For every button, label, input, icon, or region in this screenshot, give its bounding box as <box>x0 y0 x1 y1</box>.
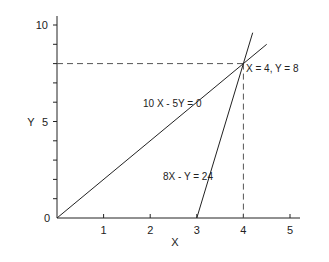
intersection-label: X = 4, Y = 8 <box>246 63 299 74</box>
y-ticks <box>53 25 57 199</box>
x-tick-label-5: 5 <box>287 224 293 236</box>
origin-label: 0 <box>44 212 50 224</box>
y-tick-label-10: 10 <box>36 19 48 31</box>
line-label-8x-y-24: 8X - Y = 24 <box>163 171 213 182</box>
x-tick-label-4: 4 <box>240 224 246 236</box>
line-8x-y-24 <box>197 33 253 218</box>
x-tick-label-2: 2 <box>147 224 153 236</box>
x-tick-label-1: 1 <box>101 224 107 236</box>
x-axis-label: X <box>171 236 179 248</box>
y-tick-label-5: 5 <box>42 116 48 128</box>
line-10x-5y-0 <box>57 44 267 218</box>
chart: 10 5 0 1 2 3 4 5 X Y 10 X - 5Y = 0 8X - … <box>0 0 329 262</box>
line-label-10x-5y-0: 10 X - 5Y = 0 <box>143 98 202 109</box>
x-tick-label-3: 3 <box>194 224 200 236</box>
y-axis-label: Y <box>27 116 35 128</box>
